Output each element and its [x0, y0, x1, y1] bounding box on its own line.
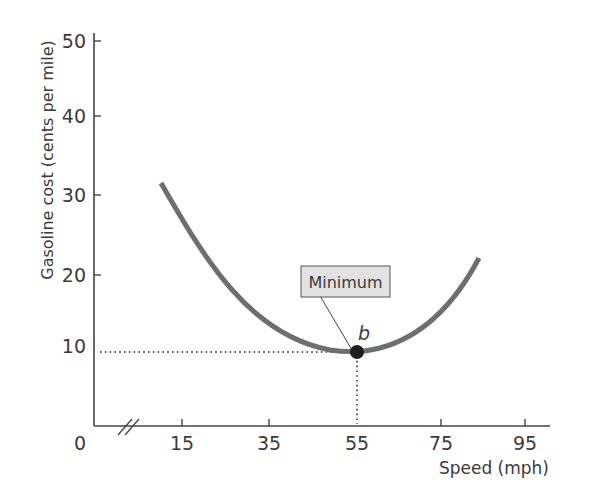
y-tick-label-40: 40: [62, 105, 86, 127]
chart: 50 40 30 20 10 0 15 35 55 75 95 Speed (m…: [0, 0, 592, 493]
y-axis-title: Gasoline cost (cents per mile): [38, 40, 57, 280]
y-tick-label-50: 50: [62, 30, 86, 52]
x-tick-label-15: 15: [170, 432, 194, 454]
x-tick-label-35: 35: [257, 432, 281, 454]
x-tick-label-0: 0: [74, 432, 86, 454]
y-tick-label-20: 20: [62, 264, 86, 286]
y-tick-label-30: 30: [62, 184, 86, 206]
x-tick-label-55: 55: [345, 432, 369, 454]
axis-break-icon: [118, 419, 139, 435]
minimum-callout-label: Minimum: [308, 273, 382, 292]
x-tick-label-75: 75: [429, 432, 453, 454]
y-tick-label-10: 10: [62, 335, 86, 357]
callout-pointer: [320, 296, 352, 350]
x-tick-label-95: 95: [513, 432, 537, 454]
minimum-point-b: [350, 345, 364, 359]
x-axis-title: Speed (mph): [439, 458, 549, 478]
y-ticks: [94, 41, 101, 275]
point-b-label: b: [358, 322, 370, 344]
x-ticks: [182, 419, 525, 426]
